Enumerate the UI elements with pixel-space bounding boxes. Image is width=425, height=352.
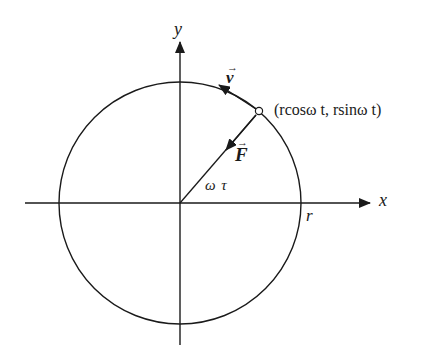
x-axis-label: x [379,191,387,209]
force-label: →F [235,145,248,164]
particle-point [255,107,262,114]
radius-label: r [306,207,313,224]
velocity-label: →v [226,69,234,86]
angle-label: ω τ [205,178,228,193]
y-axis-label: y [174,20,182,38]
vector-arrow-icon: → [237,137,248,148]
point-coordinates-label: (rcosω t, rsinω t) [274,102,381,118]
circular-motion-diagram [0,0,425,352]
velocity-arrow [219,85,256,109]
vector-arrow-icon: → [227,62,238,73]
